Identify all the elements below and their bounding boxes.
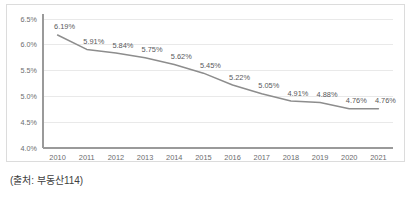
y-tick-label: 6.5% (21, 15, 38, 24)
y-tick-label: 5.5% (21, 66, 38, 75)
data-point-label: 6.19% (54, 22, 75, 31)
data-point-label: 5.45% (200, 61, 221, 70)
chart-card: 4.0%4.5%5.0%5.5%6.0%6.5% 201020112012201… (6, 4, 405, 162)
x-tick-label: 2014 (166, 153, 182, 161)
x-tick-label: 2016 (224, 153, 240, 161)
x-tick-label: 2018 (283, 153, 299, 161)
data-point-label: 4.76% (375, 96, 396, 105)
data-point-label: 5.05% (258, 81, 279, 90)
y-tick-label: 5.0% (21, 92, 38, 101)
y-axis-tick-labels: 4.0%4.5%5.0%5.5%6.0%6.5% (21, 15, 38, 153)
axis-lines (43, 14, 393, 148)
data-point-label: 5.84% (112, 41, 133, 50)
x-axis-tick-labels: 2010201120122013201420152016201720182019… (49, 153, 386, 161)
data-point-label: 4.91% (287, 89, 308, 98)
y-tick-label: 4.0% (21, 144, 38, 153)
chart-screenshot: 4.0%4.5%5.0%5.5%6.0%6.5% 201020112012201… (0, 0, 412, 203)
x-tick-label: 2012 (108, 153, 124, 161)
data-point-label: 4.88% (317, 90, 338, 99)
x-tick-label: 2019 (312, 153, 328, 161)
line-chart: 4.0%4.5%5.0%5.5%6.0%6.5% 201020112012201… (7, 5, 404, 161)
data-point-label: 5.62% (171, 52, 192, 61)
x-tick-label: 2017 (254, 153, 270, 161)
data-point-labels: 6.19%5.91%5.84%5.75%5.62%5.45%5.22%5.05%… (54, 22, 396, 105)
data-point-label: 5.75% (142, 45, 163, 54)
x-tick-label: 2015 (195, 153, 211, 161)
x-tick-label: 2013 (137, 153, 153, 161)
x-tick-label: 2020 (341, 153, 357, 161)
x-tick-label: 2021 (370, 153, 386, 161)
x-tick-label: 2011 (79, 153, 95, 161)
y-tick-label: 6.0% (21, 40, 38, 49)
data-point-label: 5.91% (83, 37, 104, 46)
source-caption: (출처: 부동산114) (10, 172, 83, 187)
y-tick-label: 4.5% (21, 118, 38, 127)
data-point-label: 4.76% (346, 96, 367, 105)
x-tick-label: 2010 (49, 153, 65, 161)
data-point-label: 5.22% (229, 73, 250, 82)
